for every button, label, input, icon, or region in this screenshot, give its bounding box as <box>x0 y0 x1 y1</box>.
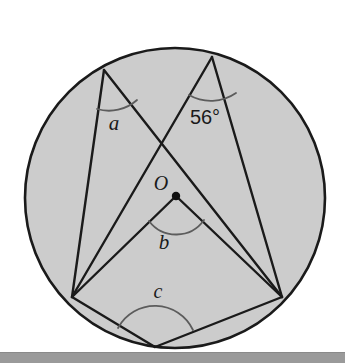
center-point-O <box>172 192 180 200</box>
page-footer-bar <box>0 352 345 363</box>
label-angle-a: a <box>109 111 120 135</box>
label-center-O: O <box>154 172 168 194</box>
label-angle-c: c <box>154 280 163 302</box>
label-angle-56: 56° <box>190 106 220 128</box>
label-angle-b: b <box>159 230 170 254</box>
